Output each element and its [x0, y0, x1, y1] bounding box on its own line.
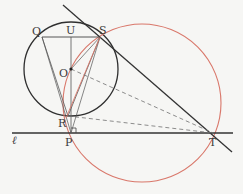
- label-p: P: [65, 136, 73, 149]
- label-q: Q: [32, 25, 41, 38]
- segment-sp: [71, 37, 100, 133]
- circle-opst: [63, 24, 221, 182]
- label-u: U: [66, 24, 75, 37]
- segment-qp: [42, 37, 71, 133]
- label-r: R: [58, 117, 67, 130]
- label-o: O: [59, 67, 68, 80]
- geometry-diagram: Q U S O R P T ℓ: [0, 0, 243, 194]
- dashed-ot: [71, 69, 213, 133]
- point-o-dot: [69, 67, 72, 70]
- label-line-l: ℓ: [12, 134, 17, 147]
- label-t: T: [209, 136, 217, 149]
- label-s: S: [99, 24, 107, 37]
- segment-os: [71, 37, 100, 69]
- dashed-rt: [68, 116, 213, 133]
